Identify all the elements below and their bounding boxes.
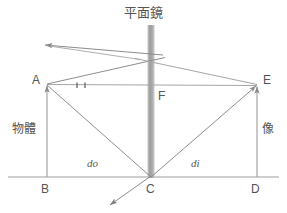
page-title: 平面鏡 bbox=[0, 6, 287, 19]
reflected-ray-C-to-E bbox=[151, 86, 256, 177]
label-point-b: B bbox=[41, 183, 49, 195]
label-object-distance: do bbox=[87, 158, 98, 169]
label-point-c: C bbox=[146, 183, 155, 195]
label-image-distance: di bbox=[191, 158, 200, 169]
label-point-f: F bbox=[158, 90, 166, 102]
virtual-ray-extension bbox=[46, 46, 140, 60]
mirror-diagram: 平面鏡 A B C D E F 物體 像 do di bbox=[0, 0, 287, 213]
construction-line-AE bbox=[47, 85, 257, 86]
label-point-e: E bbox=[263, 74, 271, 86]
plane-mirror bbox=[148, 25, 155, 178]
label-object: 物體 bbox=[12, 123, 36, 135]
transmitted-ray-arrow bbox=[110, 176, 151, 205]
label-point-a: A bbox=[32, 74, 40, 86]
reflected-ray-arrow bbox=[45, 45, 163, 55]
label-point-d: D bbox=[251, 183, 260, 195]
label-image: 像 bbox=[262, 123, 274, 135]
incident-ray-A-to-C bbox=[47, 85, 151, 177]
